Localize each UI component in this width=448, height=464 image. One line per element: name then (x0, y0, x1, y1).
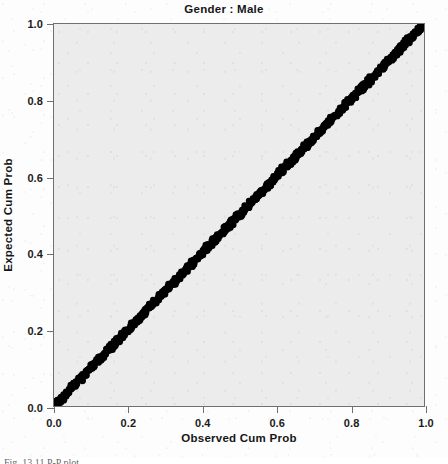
x-tick-label: 0.6 (269, 417, 285, 429)
y-tick-mark (47, 24, 54, 25)
data-points-layer (54, 24, 424, 406)
y-axis-label: Expected Cum Prob (2, 135, 14, 295)
chart-title: Gender : Male (0, 3, 448, 15)
y-tick-label: 1.0 (27, 18, 43, 30)
y-tick-mark (47, 101, 54, 102)
x-tick-label: 1.0 (418, 417, 434, 429)
y-tick-mark (47, 331, 54, 332)
plot-area: 0.00.20.40.60.81.0 0.00.20.40.60.81.0 (53, 23, 425, 407)
x-tick-mark (203, 406, 204, 413)
y-tick-label: 0.0 (27, 402, 43, 414)
x-tick-label: 0.8 (344, 417, 360, 429)
scatter-points (54, 24, 424, 406)
y-tick-label: 0.2 (27, 325, 43, 337)
x-tick-label: 0.0 (46, 417, 62, 429)
y-tick-mark (47, 254, 54, 255)
x-tick-label: 0.4 (195, 417, 211, 429)
x-tick-mark (352, 406, 353, 413)
x-tick-mark (128, 406, 129, 413)
x-tick-mark (277, 406, 278, 413)
y-tick-label: 0.4 (27, 248, 43, 260)
y-tick-mark (47, 408, 54, 409)
x-tick-mark (426, 406, 427, 413)
x-axis-label: Observed Cum Prob (53, 432, 425, 444)
y-tick-label: 0.8 (27, 95, 43, 107)
x-tick-mark (54, 406, 55, 413)
x-tick-label: 0.2 (121, 417, 137, 429)
y-tick-mark (47, 178, 54, 179)
y-tick-label: 0.6 (27, 172, 43, 184)
figure-caption: Fig. 13.11 P-P plot (4, 457, 79, 464)
